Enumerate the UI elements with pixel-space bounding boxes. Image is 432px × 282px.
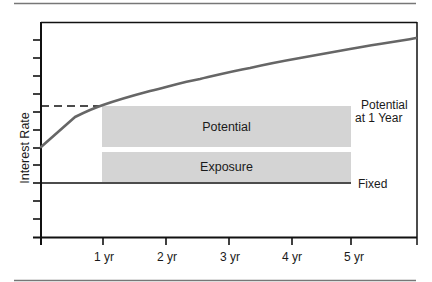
- x-tick-label-1yr: 1 yr: [94, 250, 114, 264]
- y-ticks: [33, 40, 41, 219]
- x-tick-label-2yr: 2 yr: [157, 250, 177, 264]
- x-tick-label-4yr: 4 yr: [282, 250, 302, 264]
- x-tick-label-3yr: 3 yr: [220, 250, 240, 264]
- fixed-label: Fixed: [358, 178, 387, 191]
- exposure-label: Exposure: [102, 160, 351, 174]
- potential-at-1yr-label-line2: at 1 Year: [355, 112, 402, 125]
- y-axis-label: Interest Rate: [18, 112, 32, 184]
- chart-canvas: [0, 0, 432, 282]
- potential-label: Potential: [102, 120, 351, 134]
- x-tick-label-5yr: 5 yr: [344, 250, 364, 264]
